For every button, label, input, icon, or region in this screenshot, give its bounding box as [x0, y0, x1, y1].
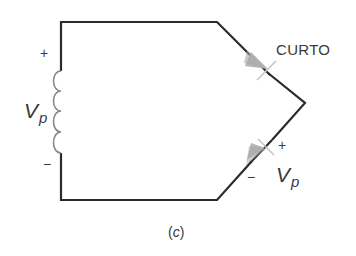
diode-bottom-polarity-plus: +: [278, 138, 286, 152]
wire-right: [268, 73, 305, 140]
diode-top-state-label: CURTO: [276, 42, 330, 57]
wire-bottom: [61, 153, 252, 200]
circuit-diagram: + Vp − CURTO + − Vp (c): [0, 0, 356, 256]
source-polarity-minus: −: [43, 157, 51, 171]
source-voltage-label: Vp: [24, 100, 47, 125]
caption-close-paren: ): [180, 224, 185, 240]
caption-letter: c: [173, 224, 180, 240]
diode-bottom-icon: [246, 139, 274, 165]
source-voltage-sub: p: [39, 109, 47, 126]
diode-bottom-voltage-sub: p: [291, 173, 299, 190]
circuit-wires: [61, 22, 305, 200]
diode-bottom-voltage-main: V: [276, 163, 290, 186]
wire-top: [61, 22, 252, 71]
diode-bottom-polarity-minus: −: [247, 170, 255, 184]
source-polarity-plus: +: [40, 46, 48, 60]
figure-caption: (c): [168, 225, 184, 239]
inductor-coil-icon: [54, 71, 62, 153]
diode-bottom-voltage-label: Vp: [276, 164, 299, 189]
source-voltage-main: V: [24, 99, 38, 122]
